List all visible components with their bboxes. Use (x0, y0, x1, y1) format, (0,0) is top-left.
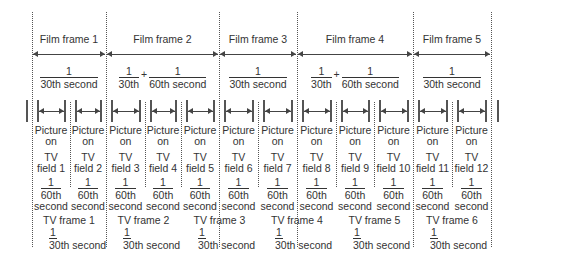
picture-on-end-bar (330, 100, 332, 122)
film-frame-duration: 130th+160th second (297, 66, 413, 90)
field-duration-fraction: 160th (228, 177, 248, 201)
film-frame-duration-arrow (414, 54, 490, 55)
fraction-denominator: 30th second (123, 239, 180, 251)
field-duration-unit: second (70, 201, 106, 212)
tv-field-label: PictureonTVfield 7160thsecond (258, 125, 297, 212)
tv-frame-label: TV frame 2 (106, 215, 181, 226)
fraction-numerator: 1 (306, 177, 326, 189)
fraction-denominator: 30th second (430, 239, 487, 251)
field-duration-unit: second (297, 201, 336, 212)
tv-field-name: field 10 (374, 163, 413, 174)
fraction-denominator: 30th second (229, 78, 286, 90)
fraction: 130th second (229, 66, 286, 90)
picture-on-text: on (219, 136, 258, 147)
fraction: 130th second (430, 226, 487, 251)
picture-on-text: on (452, 136, 491, 147)
tv-field-name: field 8 (297, 163, 336, 174)
tv-frame-label: TV frame 3 (181, 215, 258, 226)
plus-sign: + (334, 68, 340, 80)
picture-on-text: on (297, 136, 336, 147)
fraction-numerator: 1 (149, 66, 206, 78)
fraction: 130th second (423, 66, 480, 90)
tv-field-label: PictureonTVfield 12160thsecond (452, 125, 491, 212)
fraction-numerator: 1 (461, 177, 481, 189)
tv-field-name: field 12 (452, 163, 491, 174)
film-frame-duration-arrow (107, 54, 218, 55)
outer-bar-right (497, 100, 499, 122)
picture-on-arrow (304, 111, 330, 112)
picture-on-end-bar (485, 100, 487, 122)
fraction: 130th second (49, 226, 106, 251)
film-frame-label: Film frame 2 (106, 34, 219, 45)
tv-field-name: field 7 (258, 163, 297, 174)
fraction-numerator: 1 (41, 177, 61, 189)
picture-on-end-bar (446, 100, 448, 122)
field-duration-unit: second (258, 201, 297, 212)
fraction: 160th second (342, 66, 399, 90)
picture-on-end-bar (175, 100, 177, 122)
fraction-numerator: 1 (49, 227, 57, 239)
picture-on-arrow (343, 111, 368, 112)
field-duration-fraction: 160th (267, 177, 287, 201)
picture-on-end-bar (407, 100, 409, 122)
fraction-denominator: 30th (119, 78, 139, 90)
picture-on-end-bar (252, 100, 254, 122)
tv-field-name: field 1 (32, 163, 70, 174)
tv-field-name: field 3 (106, 163, 145, 174)
picture-on-text: on (32, 136, 70, 147)
fraction-numerator: 1 (78, 177, 98, 189)
fraction-denominator: 30th second (275, 239, 332, 251)
picture-on-arrow (459, 111, 485, 112)
tv-field-label: PictureonTVfield 3160thsecond (106, 125, 145, 212)
field-duration-fraction: 160th (190, 177, 210, 201)
fraction: 130th (119, 66, 139, 90)
field-duration-unit: second (106, 201, 145, 212)
fraction-denominator: 60th second (149, 78, 206, 90)
fraction-denominator: 30th second (353, 239, 410, 251)
field-duration-unit: second (452, 201, 491, 212)
film-frame-label: Film frame 5 (413, 34, 491, 45)
picture-on-end-bar (368, 100, 370, 122)
fraction-numerator: 1 (40, 66, 97, 78)
tv-frame-duration: 130th second (353, 226, 410, 251)
picture-on-arrow (226, 111, 252, 112)
tv-field-label: PictureonTVfield 6160thsecond (219, 125, 258, 212)
tv-frame-duration: 130th second (49, 226, 106, 251)
field-duration-fraction: 160th (153, 177, 173, 201)
outer-bar-left (26, 100, 28, 122)
field-duration-fraction: 160th (383, 177, 403, 201)
fraction-numerator: 1 (229, 66, 286, 78)
fraction-numerator: 1 (353, 227, 361, 239)
picture-on-text: on (336, 136, 374, 147)
field-duration-unit: second (181, 201, 219, 212)
film-frame-duration: 130th second (219, 66, 297, 90)
fraction-denominator: 60th second (342, 78, 399, 90)
field-duration-fraction: 160th (41, 177, 61, 201)
field-duration-unit: second (219, 201, 258, 212)
film-frame-label: Film frame 1 (32, 34, 106, 45)
picture-on-arrow (188, 111, 213, 112)
picture-on-arrow (77, 111, 100, 112)
fraction-numerator: 1 (311, 66, 331, 78)
film-frame-duration: 130th+160th second (106, 66, 219, 90)
film-frame-duration-arrow (220, 54, 296, 55)
tv-field-name: field 11 (413, 163, 452, 174)
fraction: 130th second (275, 226, 332, 251)
picture-on-text: on (413, 136, 452, 147)
picture-on-end-bar (291, 100, 293, 122)
fraction-numerator: 1 (115, 177, 135, 189)
fraction-numerator: 1 (423, 66, 480, 78)
field-duration-unit: second (413, 201, 452, 212)
fraction: 130th second (353, 226, 410, 251)
fraction-numerator: 1 (342, 66, 399, 78)
fraction-numerator: 1 (275, 227, 283, 239)
tv-field-name: field 9 (336, 163, 374, 174)
tv-frame-duration: 130th second (430, 226, 487, 251)
fraction-denominator: 30th second (423, 78, 480, 90)
fraction-numerator: 1 (267, 177, 287, 189)
fraction-denominator: 30th (311, 78, 331, 90)
fraction-numerator: 1 (422, 177, 442, 189)
tv-field-name: field 6 (219, 163, 258, 174)
frame-boundary-line (491, 12, 492, 247)
fraction-numerator: 1 (153, 177, 173, 189)
